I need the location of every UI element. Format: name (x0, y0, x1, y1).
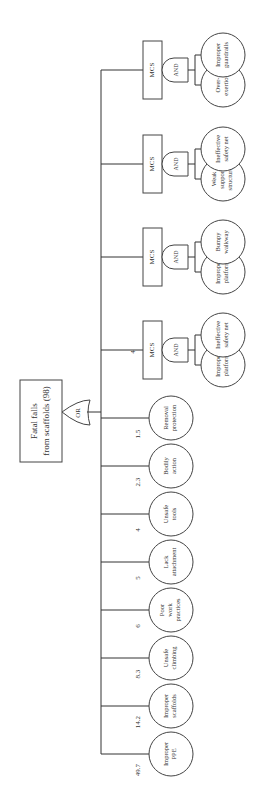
mcs-label: MCS (148, 63, 156, 78)
mcs-branch: MCSANDImproperplatformBumpywalkway (101, 220, 245, 294)
probability-value: 14.2 (134, 715, 142, 728)
mcs-event-label: walkway (222, 230, 229, 254)
and-gate-label: AND (173, 343, 179, 357)
top-event-line2: from scaffolds (98) (41, 386, 51, 455)
basic-event-label: Poor (158, 603, 165, 616)
mcs-event-label: guardrails (222, 42, 229, 68)
mcs-label: MCS (148, 250, 156, 265)
basic-event-label: action (170, 457, 177, 474)
or-gate: OR (62, 400, 101, 425)
mcs-branch: MCSANDOver-exertionImproperguardrails (101, 33, 245, 107)
probability-value: 4 (134, 528, 142, 532)
top-event-line1: Fatal falls (29, 403, 39, 439)
mcs-event-label: safety net (222, 136, 229, 161)
or-gate-label: OR (74, 408, 82, 418)
mcs-probability-value: 4 (129, 350, 137, 354)
mcs-event-label: support (218, 169, 225, 189)
probability-value: 8.3 (134, 669, 142, 678)
mcs-event-label: Weak (210, 171, 217, 186)
basic-event: Poorworkpractices6 (101, 588, 193, 632)
basic-event-label: Unsafe (162, 505, 169, 524)
top-event: Fatal falls from scaffolds (98) (20, 380, 62, 462)
mcs-branch: MCSANDWeaksupportstructureIneffectivesaf… (101, 127, 245, 201)
basic-event: Bodilyaction2.3 (101, 444, 193, 488)
mcs-event-label: safety net (222, 322, 229, 347)
probability-value: 49.7 (134, 763, 142, 776)
mcs-group: MCSANDImproperplatformIneffectivesafety … (101, 33, 245, 387)
basic-event: ImproperPPE49.7 (101, 732, 193, 776)
basic-event-label: practices (174, 598, 181, 622)
basic-event-label: Unsafe (162, 649, 169, 668)
and-gate-label: AND (173, 250, 179, 264)
basic-event-label: Removal (162, 406, 169, 430)
basic-event: Unsafetools4 (101, 492, 193, 536)
basic-event-label: PPE (170, 748, 177, 759)
probability-value: 1.5 (134, 429, 142, 438)
and-gate-label: AND (173, 63, 179, 77)
probability-value: 5 (134, 576, 142, 580)
basic-event-label: tools (170, 507, 177, 520)
basic-event-label: protection (170, 404, 177, 431)
basic-event-label: Lack (162, 555, 169, 569)
probability-value: 2.3 (134, 477, 142, 486)
mcs-label: MCS (148, 157, 156, 172)
basic-event-label: work (166, 603, 173, 617)
basic-event-label: climbing (170, 646, 177, 670)
mcs-event-label: Ineffective (214, 135, 221, 163)
basic-event: Unsafeclimbing8.3 (101, 636, 193, 680)
mcs-label: MCS (148, 343, 156, 358)
basic-event-label: scaffolds (170, 694, 177, 718)
mcs-event-label: Ineffective (214, 321, 221, 349)
and-gate-label: AND (173, 157, 179, 171)
basic-event-label: Improper (162, 693, 169, 718)
basic-event-label: attachment (170, 548, 177, 577)
mcs-event-label: Bumpy (214, 232, 221, 252)
fault-tree-diagram: Fatal falls from scaffolds (98) OR Impro… (0, 0, 260, 800)
basic-event-label: Improper (162, 741, 169, 766)
basic-events: ImproperPPE49.7Improperscaffolds14.2Unsa… (101, 396, 193, 776)
basic-event: Removalprotection1.5 (101, 396, 193, 440)
mcs-branch: MCSANDImproperplatformIneffectivesafety … (101, 313, 245, 387)
mcs-event-label: Improper (214, 42, 221, 67)
mcs-event-label: Over- (214, 77, 221, 92)
probability-value: 6 (134, 624, 142, 628)
basic-event-label: Bodily (162, 456, 169, 474)
basic-event: Improperscaffolds14.2 (101, 684, 193, 728)
basic-event: Lackattachment5 (101, 540, 193, 584)
